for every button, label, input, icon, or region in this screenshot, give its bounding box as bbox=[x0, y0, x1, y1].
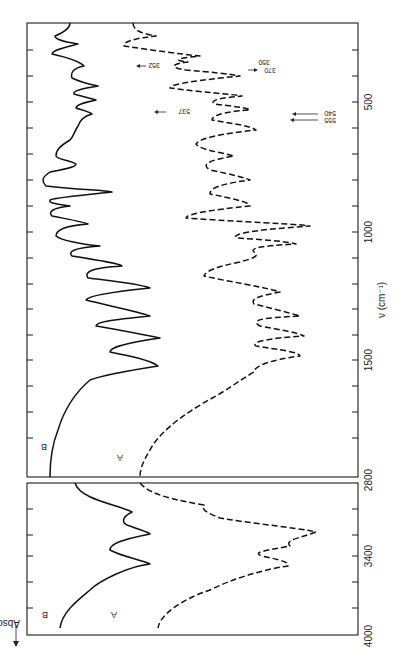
annotation-350-370: 350 370 bbox=[248, 59, 276, 74]
x-axis-ticks-left bbox=[27, 50, 33, 608]
x-axis-ticks-right bbox=[352, 50, 358, 608]
curve-b-high-frequency bbox=[60, 483, 150, 628]
high-frequency-panel-frame bbox=[27, 483, 358, 635]
y-axis-label: Absorption bbox=[0, 618, 20, 629]
curve-b-low-frequency bbox=[43, 23, 160, 477]
svg-text:555: 555 bbox=[324, 117, 336, 124]
svg-text:350: 350 bbox=[258, 59, 270, 66]
x-tick-labels: 500 1000 1500 2800 3400 4000 bbox=[363, 93, 374, 647]
tick-label-1500: 1500 bbox=[363, 348, 374, 371]
curve-label-b-low: B bbox=[41, 442, 47, 452]
svg-text:537: 537 bbox=[178, 108, 190, 115]
tick-label-500: 500 bbox=[363, 93, 374, 110]
svg-text:370: 370 bbox=[264, 67, 276, 74]
svg-text:540: 540 bbox=[324, 110, 336, 117]
y-axis-label-group: Absorption bbox=[0, 618, 20, 647]
curve-label-a-low: A bbox=[117, 453, 123, 463]
tick-label-2800: 2800 bbox=[363, 468, 374, 491]
tick-label-1000: 1000 bbox=[363, 220, 374, 243]
y-axis-arrowhead-icon bbox=[13, 641, 19, 647]
tick-label-3400: 3400 bbox=[363, 544, 374, 567]
curve-label-a-high: A bbox=[111, 610, 117, 620]
ir-spectrum-figure: 500 1000 1500 2800 3400 4000 ν (cm⁻¹) Ab… bbox=[0, 0, 401, 665]
curve-label-b-high: B bbox=[42, 610, 48, 620]
curve-a-low-frequency bbox=[124, 23, 310, 477]
tick-label-4000: 4000 bbox=[363, 624, 374, 647]
annotation-537: 537 bbox=[154, 108, 190, 115]
annotation-352: 352 bbox=[136, 62, 160, 69]
annotation-540-555: 540 555 bbox=[290, 110, 336, 124]
x-axis-label: ν (cm⁻¹) bbox=[376, 282, 387, 318]
svg-text:352: 352 bbox=[148, 62, 160, 69]
curve-a-high-frequency bbox=[140, 483, 316, 628]
